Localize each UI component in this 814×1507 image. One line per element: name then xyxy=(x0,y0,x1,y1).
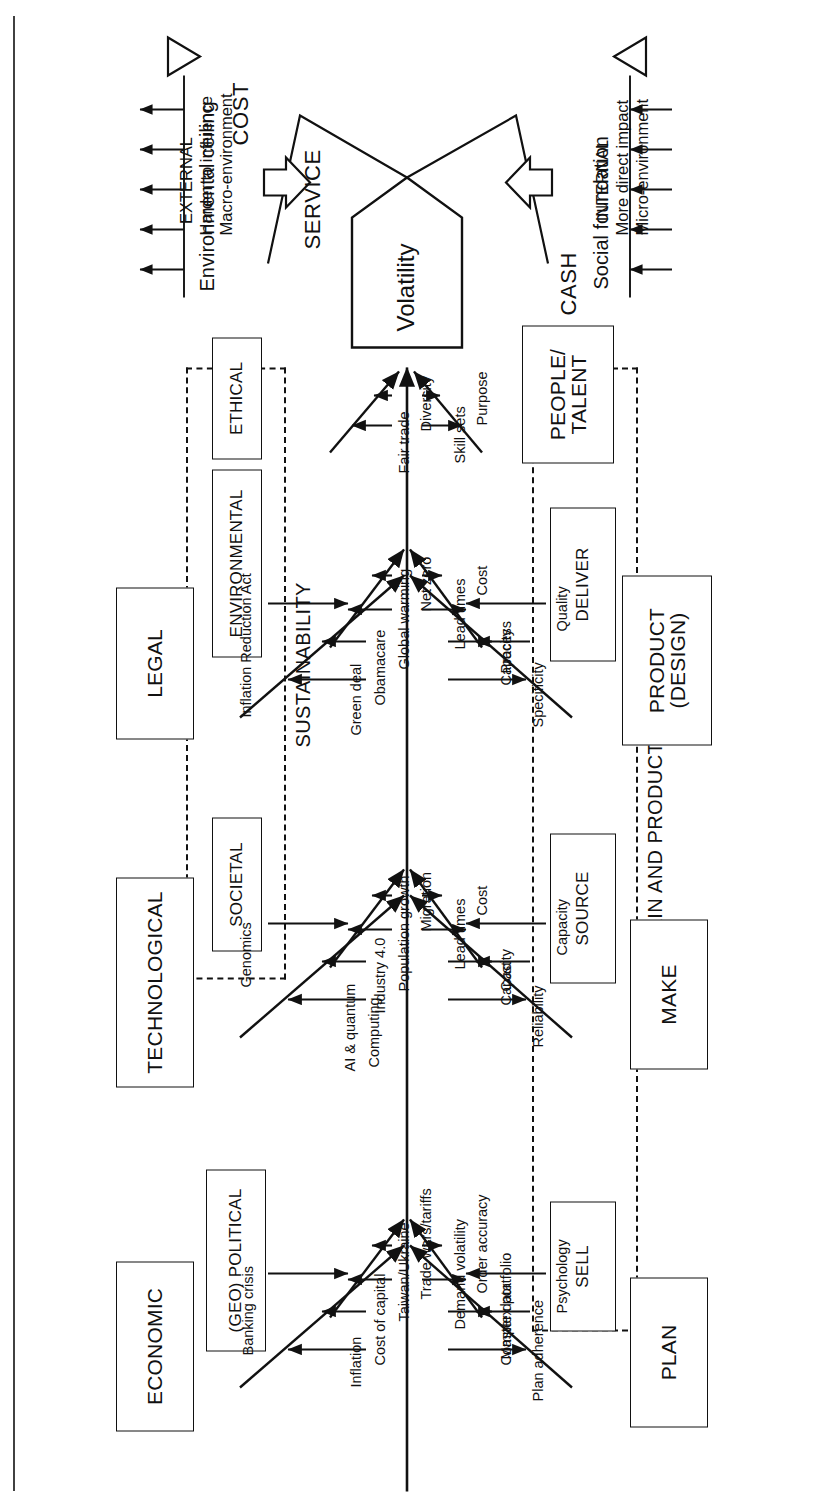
cause-label-cost-make: Cost xyxy=(498,961,514,991)
cause-label-psychology: Psychology xyxy=(554,1239,570,1313)
category-label-deliver: DELIVER xyxy=(574,547,591,621)
category-box-deliver[interactable]: DELIVER xyxy=(550,507,616,661)
cause-label-master-data: Master data xyxy=(498,1282,514,1359)
cause-label-migration: Migration xyxy=(418,871,434,931)
category-box-make[interactable]: MAKE xyxy=(630,919,708,1069)
external-header: EXTERNAL Harder to influence Macro-envir… xyxy=(176,125,236,235)
cause-label-process: Process xyxy=(498,621,514,673)
category-label-product: PRODUCT xyxy=(646,607,667,712)
external-line2: Harder to influence xyxy=(196,125,216,235)
cause-label-fair-trade: Fair trade xyxy=(396,411,412,473)
category-label-legal: LEGAL xyxy=(144,629,165,698)
category-box-geo-political[interactable]: (GEO) POLITICAL xyxy=(206,1169,266,1351)
cause-label-inflation-reduction-act: Inflation Reduction Act xyxy=(238,573,254,717)
category-label-people: PEOPLE/ xyxy=(547,348,568,439)
cause-label-quality: Quality xyxy=(554,586,570,631)
internal-header: INTERNAL More direct impact Micro-enviro… xyxy=(592,125,652,235)
category-box-environmental[interactable]: ENVIRONMENTAL xyxy=(212,469,262,657)
cause-label-demand-volatility: Demand volatility xyxy=(452,1219,468,1329)
cause-label-cost-source: Cost xyxy=(474,885,490,915)
category-label-plan: PLAN xyxy=(658,1324,679,1380)
diagram-page: Volatility SERVICE COST CASH Environment… xyxy=(0,0,814,1507)
cause-label-diversity: Diversity xyxy=(418,375,434,431)
category-label-societal: SOCIETAL xyxy=(228,842,245,926)
category-label-economic: ECONOMIC xyxy=(144,1287,165,1404)
cause-label-taiwan-ukraine: Taiwan/Ukraine xyxy=(396,1222,412,1321)
cause-label-green-deal: Green deal xyxy=(348,663,364,735)
wedge-label-service: SERVICE xyxy=(300,149,326,249)
cause-label-inflation: Inflation xyxy=(348,1336,364,1387)
cause-label-ai-quantum: AI & quantum xyxy=(342,983,358,1071)
category-label-design: (DESIGN) xyxy=(667,612,688,708)
category-label-sell: SELL xyxy=(574,1245,591,1287)
wedge-label-cash: CASH xyxy=(556,251,582,315)
category-label-make: MAKE xyxy=(658,964,679,1024)
cause-label-net-zero: Net zero xyxy=(418,556,434,611)
category-box-legal[interactable]: LEGAL xyxy=(116,587,194,739)
cause-label-banking-crisis: Banking crisis xyxy=(240,1266,256,1355)
category-box-ethical[interactable]: ETHICAL xyxy=(212,337,262,459)
cause-label-genomics: Genomics xyxy=(238,922,254,987)
external-line3: Macro-environment xyxy=(216,125,236,235)
internal-line1: INTERNAL xyxy=(592,125,612,235)
group-label-sustainability: SUSTAINABILITY xyxy=(292,582,315,747)
internal-line2: More direct impact xyxy=(612,125,632,235)
cause-label-specificity: Specificity xyxy=(530,662,546,727)
head-label-volatility: Volatility xyxy=(392,243,420,331)
cause-label-capacity-make: Capacity xyxy=(554,899,570,955)
cause-label-skill-sets: Skill sets xyxy=(452,406,468,463)
category-box-societal[interactable]: SOCIETAL xyxy=(212,817,262,951)
cause-label-trade-wars: Trade wars/tariffs xyxy=(418,1188,434,1299)
cause-label-lead-times-source: Lead times xyxy=(452,898,468,969)
cause-label-order-accuracy: Order accuracy xyxy=(474,1194,490,1293)
cause-label-lead-times-deliver: Lead times xyxy=(452,578,468,649)
category-label-source: SOURCE xyxy=(574,871,591,945)
cause-label-cost-deliver: Cost xyxy=(474,565,490,595)
cause-label-reliability: Reliability xyxy=(530,985,546,1047)
category-box-people-talent[interactable]: PEOPLE/ TALENT xyxy=(522,325,614,463)
category-box-product-design[interactable]: PRODUCT (DESIGN) xyxy=(622,575,712,745)
cause-label-cost-of-capital: Cost of capital xyxy=(372,1273,388,1365)
category-label-ethical: ETHICAL xyxy=(228,361,245,434)
fishbone-stage: Volatility SERVICE COST CASH Environment… xyxy=(0,0,814,1507)
external-line1: EXTERNAL xyxy=(176,125,196,235)
category-box-plan[interactable]: PLAN xyxy=(630,1277,708,1427)
cause-label-population-growth: Population growth xyxy=(396,875,412,991)
cause-label-purpose: Purpose xyxy=(474,371,490,425)
cause-label-obamacare: Obamacare xyxy=(372,629,388,705)
internal-line3: Micro-environment xyxy=(632,125,652,235)
category-box-technological[interactable]: TECHNOLOGICAL xyxy=(116,877,194,1087)
category-label-talent: TALENT xyxy=(568,354,589,434)
cause-label-plan-adherence: Plan adherence xyxy=(530,1299,546,1401)
category-label-technological: TECHNOLOGICAL xyxy=(144,891,165,1073)
cause-label-industry-40: Industry 4.0 xyxy=(372,937,388,1013)
cause-label-global-warming: Global warming xyxy=(396,568,412,669)
category-box-economic[interactable]: ECONOMIC xyxy=(116,1261,194,1431)
